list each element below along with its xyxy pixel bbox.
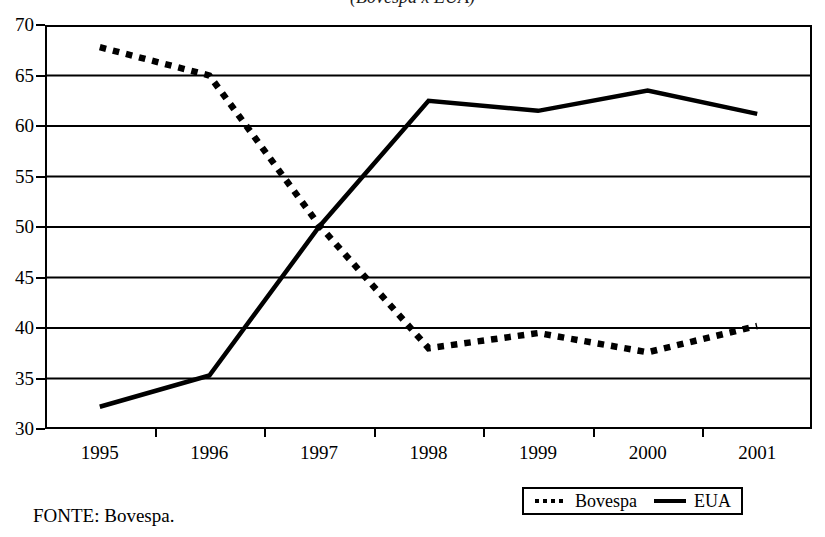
x-tick-mark bbox=[155, 429, 157, 437]
x-tick-label: 1998 bbox=[384, 443, 474, 463]
legend-item-eua: EUA bbox=[653, 492, 731, 510]
x-tick-mark bbox=[264, 429, 266, 437]
x-tick-mark bbox=[483, 429, 485, 437]
x-tick-label: 1996 bbox=[164, 443, 254, 463]
chart-page: (Bovespa x EUA) 303540455055606570 19951… bbox=[0, 0, 825, 537]
x-tick-label: 1997 bbox=[274, 443, 364, 463]
legend-label-bovespa: Bovespa bbox=[575, 492, 637, 510]
solid-line-key bbox=[653, 496, 687, 506]
x-tick-mark bbox=[374, 429, 376, 437]
x-axis: 1995199619971998199920002001 bbox=[0, 0, 825, 480]
x-tick-mark bbox=[702, 429, 704, 437]
x-tick-label: 1995 bbox=[55, 443, 145, 463]
source-note: FONTE: Bovespa. bbox=[33, 505, 174, 527]
x-tick-label: 2001 bbox=[712, 443, 802, 463]
dotted-line-key bbox=[534, 496, 568, 506]
legend-label-eua: EUA bbox=[694, 492, 731, 510]
x-tick-label: 1999 bbox=[493, 443, 583, 463]
legend-item-bovespa: Bovespa bbox=[534, 492, 637, 510]
chart-legend: Bovespa EUA bbox=[522, 487, 743, 515]
x-tick-mark bbox=[593, 429, 595, 437]
x-tick-label: 2000 bbox=[603, 443, 693, 463]
